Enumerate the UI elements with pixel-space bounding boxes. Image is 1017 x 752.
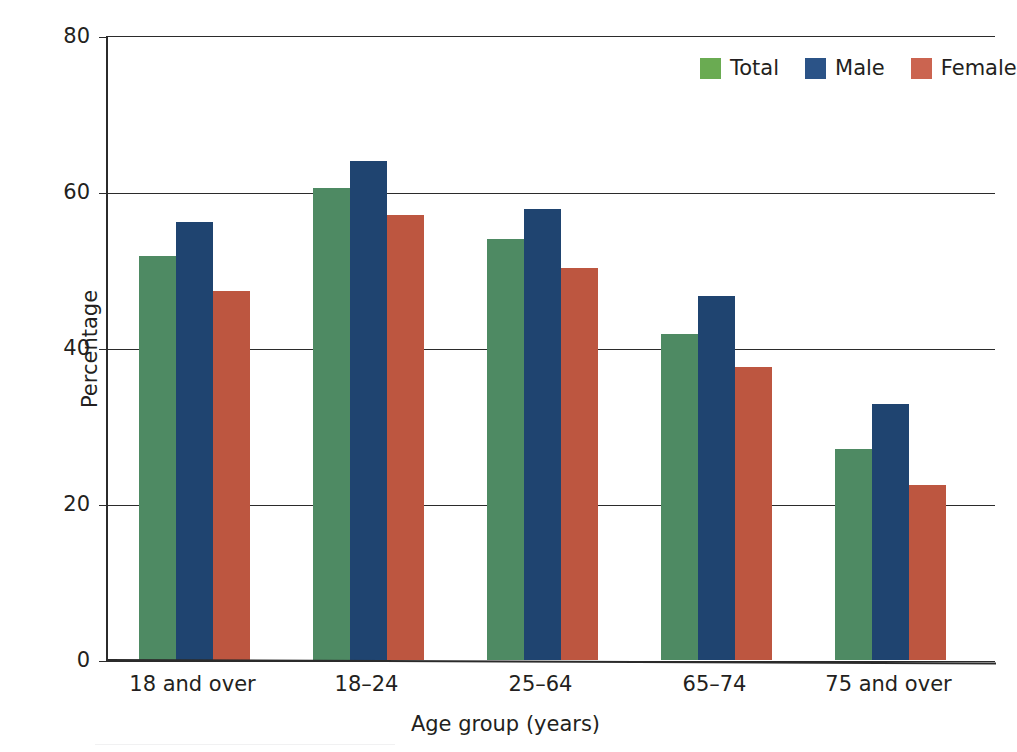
scan-artifact: [95, 744, 395, 745]
y-tick-label: 40: [28, 338, 90, 359]
bar-female-2: [561, 268, 598, 660]
bar-total-4: [835, 449, 872, 660]
bar-male-2: [524, 209, 561, 660]
y-tick-mark: [99, 661, 108, 662]
bar-female-1: [387, 215, 424, 660]
bar-female-0: [213, 291, 250, 660]
bar-total-0: [139, 256, 176, 660]
x-tick-label-4: 75 and over: [779, 672, 999, 696]
y-tick-mark: [99, 193, 108, 194]
bar-male-1: [350, 161, 387, 660]
bar-male-0: [176, 222, 213, 660]
bar-total-1: [313, 188, 350, 660]
y-tick-mark: [99, 349, 108, 350]
bar-female-3: [735, 367, 772, 660]
y-tick-label: 60: [28, 182, 90, 203]
bar-male-3: [698, 296, 735, 660]
bar-male-4: [872, 404, 909, 660]
y-tick-label: 20: [28, 494, 90, 515]
bar-total-3: [661, 334, 698, 660]
y-tick-mark: [99, 505, 108, 506]
x-axis-title: Age group (years): [0, 712, 1011, 736]
plot-area: Percentage 020406080: [106, 36, 995, 660]
y-tick-label: 80: [28, 26, 90, 47]
y-gridline: [108, 193, 995, 194]
bar-female-4: [909, 485, 946, 661]
bar-total-2: [487, 239, 524, 660]
y-tick-label: 0: [28, 650, 90, 671]
y-tick-mark: [99, 37, 108, 38]
